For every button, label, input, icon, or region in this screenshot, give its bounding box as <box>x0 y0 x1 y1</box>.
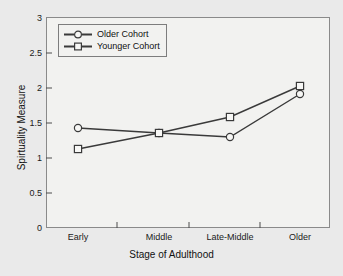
legend-marker-square-icon <box>63 41 93 52</box>
data-point-older-older <box>296 90 303 97</box>
y-tick-marks <box>46 53 52 193</box>
legend-row-younger-cohort: Younger Cohort <box>63 41 160 52</box>
data-point-older-late-middle <box>226 133 233 140</box>
data-point-younger-late-middle <box>226 113 233 120</box>
chart-legend: Older Cohort Younger Cohort <box>58 24 167 57</box>
series-line-younger-cohort <box>78 86 300 149</box>
data-point-older-early <box>74 124 81 131</box>
series-younger-cohort <box>74 82 303 152</box>
x-tick-marks <box>117 222 260 228</box>
legend-label-younger-cohort: Younger Cohort <box>97 41 160 52</box>
data-point-younger-middle <box>155 129 162 136</box>
series-older-cohort <box>74 90 303 140</box>
legend-label-older-cohort: Older Cohort <box>97 29 149 40</box>
legend-row-older-cohort: Older Cohort <box>63 29 160 40</box>
data-point-younger-older <box>296 82 303 89</box>
chart-figure: 3 2.5 2 1.5 1 0.5 0 Early Middle Late-Mi… <box>0 0 343 276</box>
legend-marker-circle-icon <box>63 29 93 40</box>
chart-svg <box>0 0 343 276</box>
data-point-younger-early <box>74 145 81 152</box>
